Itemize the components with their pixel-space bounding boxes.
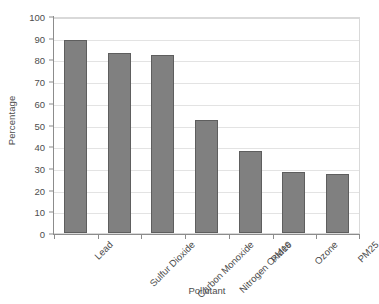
y-tick-label: 50 xyxy=(34,120,45,131)
y-tick-label: 20 xyxy=(34,185,45,196)
x-tick-label: Lead xyxy=(92,239,115,262)
bars-layer xyxy=(54,18,359,233)
bar[interactable] xyxy=(108,53,131,233)
y-tick-label: 40 xyxy=(34,142,45,153)
y-axis-title-text: Percentage xyxy=(7,95,18,145)
x-tick-label: PM10 xyxy=(268,239,293,264)
bar[interactable] xyxy=(195,120,218,233)
bar[interactable] xyxy=(326,174,349,233)
x-tick-label: Ozone xyxy=(312,239,340,267)
bar-slot xyxy=(228,18,272,233)
y-tick-label: 90 xyxy=(34,33,45,44)
bar-slot xyxy=(272,18,316,233)
bar-slot xyxy=(315,18,359,233)
x-tick-label: PM25 xyxy=(355,239,379,264)
plot-area xyxy=(54,17,360,234)
y-axis-title: Percentage xyxy=(0,0,24,240)
y-tick-label: 10 xyxy=(34,207,45,218)
y-tick-label: 70 xyxy=(34,77,45,88)
bar[interactable] xyxy=(282,172,305,233)
y-tick-label: 30 xyxy=(34,163,45,174)
y-tick-label: 80 xyxy=(34,55,45,66)
bar[interactable] xyxy=(239,151,262,233)
y-tick-label: 0 xyxy=(40,229,45,240)
y-tick-label: 60 xyxy=(34,98,45,109)
bar[interactable] xyxy=(151,55,174,233)
bar-slot xyxy=(54,18,98,233)
bar-slot xyxy=(98,18,142,233)
x-tick-label: Sulfur Dioxide xyxy=(147,239,197,289)
x-axis-tick-labels: LeadSulfur DioxideCarbon MonoxideNitroge… xyxy=(54,239,360,287)
bar-slot xyxy=(141,18,185,233)
bar[interactable] xyxy=(64,40,87,233)
y-tick-label: 100 xyxy=(29,12,45,23)
bar-chart: Percentage 1009080706050403020100 LeadSu… xyxy=(0,0,379,304)
bar-slot xyxy=(185,18,229,233)
x-axis-title: Pollutant xyxy=(54,285,360,296)
y-axis-tick-labels: 1009080706050403020100 xyxy=(22,17,49,234)
